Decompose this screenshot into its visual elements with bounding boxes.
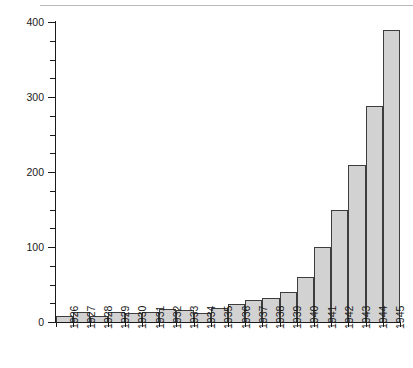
bar: [383, 30, 400, 323]
y-axis-major-tick: [48, 172, 56, 173]
x-axis-tick-label: 1937: [258, 306, 269, 329]
x-axis-tick-label: 1943: [361, 306, 372, 329]
y-axis-minor-tick: [50, 60, 56, 61]
y-axis-minor-tick: [50, 228, 56, 229]
y-axis-minor-tick: [50, 41, 56, 42]
y-axis-major-tick: [48, 22, 56, 23]
x-axis-tick-label: 1938: [275, 306, 286, 329]
x-axis-tick-label: 1926: [69, 306, 80, 329]
x-axis-tick-label: 1945: [395, 306, 406, 329]
x-axis-tick-label: 1944: [378, 306, 389, 329]
x-axis-tick-label: 1929: [120, 306, 131, 329]
x-axis-tick-label: 1931: [155, 306, 166, 329]
y-axis-minor-tick: [50, 116, 56, 117]
bar: [366, 106, 383, 322]
y-axis-minor-tick: [50, 266, 56, 267]
y-axis-tick-label: 100: [26, 242, 44, 253]
y-axis-major-tick: [48, 247, 56, 248]
x-axis-tick-label: 1941: [327, 306, 338, 329]
y-axis-major-tick: [48, 322, 56, 323]
y-axis-tick-label: 200: [26, 167, 44, 178]
figure-top-rule: [40, 5, 413, 6]
x-axis-tick-label: 1928: [103, 306, 114, 329]
x-axis-tick: [56, 322, 57, 327]
y-axis-tick-label: 0: [38, 317, 44, 328]
x-axis-tick-label: 1927: [86, 306, 97, 329]
x-axis-tick-label: 1934: [206, 306, 217, 329]
x-axis-tick-label: 1940: [309, 306, 320, 329]
y-axis-minor-tick: [50, 191, 56, 192]
x-axis-tick-label: 1942: [344, 306, 355, 329]
bar-chart-figure: 0100200300400 19261927192819291930193119…: [0, 0, 413, 368]
y-axis-minor-tick: [50, 210, 56, 211]
x-axis-tick-label: 1935: [223, 306, 234, 329]
y-axis-minor-tick: [50, 153, 56, 154]
y-axis-tick-label: 300: [26, 92, 44, 103]
y-axis-minor-tick: [50, 135, 56, 136]
x-axis-tick-label: 1930: [137, 306, 148, 329]
y-axis-minor-tick: [50, 78, 56, 79]
y-axis-major-tick: [48, 97, 56, 98]
x-axis-tick-label: 1939: [292, 306, 303, 329]
x-axis-tick-label: 1933: [189, 306, 200, 329]
bar: [348, 165, 365, 323]
x-axis-tick-label: 1932: [172, 306, 183, 329]
x-axis-tick-label: 1936: [241, 306, 252, 329]
y-axis-minor-tick: [50, 303, 56, 304]
y-axis-tick-label: 400: [26, 17, 44, 28]
y-axis-minor-tick: [50, 285, 56, 286]
